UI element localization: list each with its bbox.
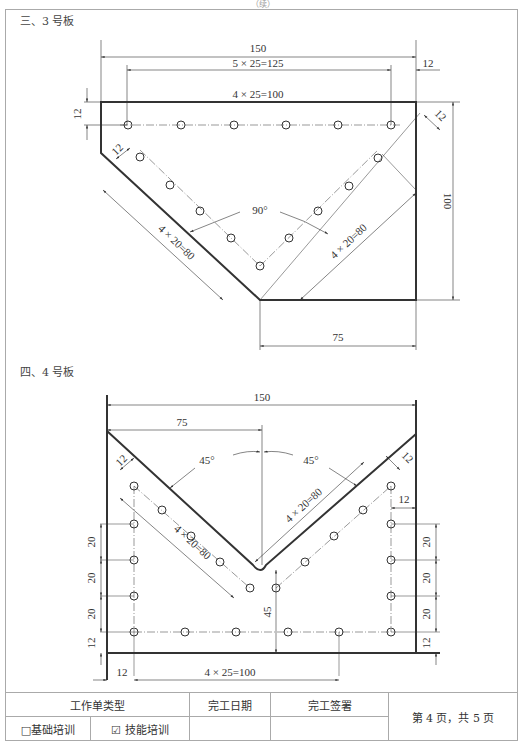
work-order-type-label: 工作单类型 — [6, 693, 190, 717]
plate-3-dimensions: 150 5 × 25=125 12 4 × 25=100 12 12 12 90… — [71, 42, 454, 343]
option-skill-training[interactable]: ☑ 技能培训 — [91, 717, 190, 741]
p4-dim-150: 150 — [254, 391, 271, 403]
p3-dim-125: 5 × 25=125 — [233, 57, 284, 69]
p4-dim-right-edge-12: 12 — [399, 493, 410, 505]
p3-dim-150: 150 — [250, 42, 267, 54]
p3-dim-left-diag-80: 4 × 20=80 — [156, 222, 198, 262]
p4-dim-right-20-2: 20 — [420, 572, 432, 584]
p4-angle-left-45: 45° — [199, 454, 214, 466]
page-info: 第 4 页，共 5 页 — [389, 693, 518, 741]
p3-dim-100-span: 4 × 25=100 — [233, 88, 284, 100]
work-order-footer-table: 工作单类型 完工日期 完工签署 第 4 页，共 5 页 □基础培训 ☑ 技能培训 — [5, 692, 518, 741]
p4-dim-right-12: 12 — [420, 638, 432, 649]
p4-dim-left-diag-80: 4 × 20=80 — [172, 522, 214, 562]
p3-dim-right-12: 12 — [423, 57, 434, 69]
p4-dim-right-diag-12: 12 — [400, 449, 416, 465]
p3-dim-75: 75 — [333, 331, 345, 343]
p3-dim-100: 100 — [442, 193, 454, 210]
p4-dim-left-20-3: 20 — [85, 608, 97, 620]
finish-sign-field[interactable] — [271, 717, 389, 741]
p4-dim-left-diag-12: 12 — [113, 452, 129, 468]
technical-drawings: 150 5 × 25=125 12 4 × 25=100 12 12 12 90… — [0, 0, 525, 745]
p3-angle-90: 90° — [252, 204, 267, 216]
option-basic-training[interactable]: □基础培训 — [6, 717, 91, 741]
finish-date-field[interactable] — [190, 717, 271, 741]
p4-angle-right-45: 45° — [303, 454, 318, 466]
p4-dim-bottom-100: 4 × 25=100 — [205, 666, 256, 678]
p4-dim-45: 45 — [261, 606, 273, 618]
p4-dim-left-12: 12 — [85, 638, 97, 649]
p4-dim-right-20-3: 20 — [420, 608, 432, 620]
p3-dim-right-diag-12: 12 — [433, 107, 449, 123]
p4-dim-left-20-2: 20 — [85, 572, 97, 584]
p3-dim-top-12: 12 — [71, 109, 83, 120]
p4-dim-bottom-12: 12 — [117, 666, 128, 678]
p3-dim-left-diag-12: 12 — [109, 141, 125, 157]
plate-4-drawing — [93, 395, 440, 680]
finish-sign-label: 完工签署 — [271, 693, 389, 717]
finish-date-label: 完工日期 — [190, 693, 271, 717]
p4-dim-left-20-1: 20 — [85, 536, 97, 548]
p4-dim-75: 75 — [177, 416, 189, 428]
plate-3-drawing — [84, 40, 460, 350]
p4-dim-right-20-1: 20 — [420, 536, 432, 548]
